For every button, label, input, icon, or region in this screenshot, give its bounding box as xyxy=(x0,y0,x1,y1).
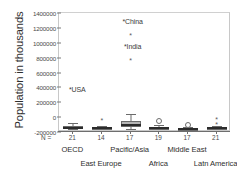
median-line xyxy=(121,124,141,126)
category-label: OECD xyxy=(61,145,83,154)
y-tick-mark xyxy=(57,13,61,14)
y-tick-label: 1400000 xyxy=(33,10,56,17)
outlier-extreme-marker: * xyxy=(101,117,104,124)
category-label: Pacific/Asia xyxy=(110,145,149,154)
y-axis-title: Population in thousands xyxy=(10,4,28,136)
plot-area: 1400000120000010000008000006000004000002… xyxy=(58,12,230,131)
whisker-cap-upper xyxy=(154,125,164,126)
y-tick-label: 1000000 xyxy=(33,39,56,46)
whisker-cap-upper xyxy=(126,114,136,115)
n-value: 17 xyxy=(126,134,133,141)
n-value: 19 xyxy=(155,134,162,141)
y-tick-label: 200000 xyxy=(36,99,56,106)
median-line xyxy=(178,128,198,130)
point-annotation: *India xyxy=(124,42,141,49)
category-label: Middle East xyxy=(167,145,206,154)
boxplot-box xyxy=(145,25,174,144)
y-tick-label: 1200000 xyxy=(33,24,56,31)
category-label: East Europe xyxy=(80,159,121,168)
category-label: Africa xyxy=(149,159,168,168)
n-value: 21 xyxy=(69,134,76,141)
median-line xyxy=(63,127,83,129)
y-tick-label: 400000 xyxy=(36,84,56,91)
median-line xyxy=(207,127,227,129)
outlier-extreme-marker: * xyxy=(129,56,132,63)
point-annotation: *China xyxy=(122,18,142,25)
median-line xyxy=(92,127,112,129)
median-line xyxy=(149,127,169,129)
outlier-marker xyxy=(185,122,191,128)
whisker-cap-upper xyxy=(68,123,78,124)
x-axis-line xyxy=(58,131,230,132)
boxplot-box xyxy=(174,25,203,144)
category-label: Latn America xyxy=(194,159,237,168)
n-value: 14 xyxy=(97,134,104,141)
boxplot-box: ** xyxy=(202,25,231,144)
boxplot-box xyxy=(59,25,88,144)
boxplot-chart: Population in thousands 1400000120000010… xyxy=(0,0,237,180)
n-value: 21 xyxy=(212,134,219,141)
outlier-extreme-marker: * xyxy=(129,32,132,39)
y-tick-label: 0 xyxy=(53,114,56,121)
outlier-marker xyxy=(156,118,162,124)
y-tick-label: 600000 xyxy=(36,69,56,76)
n-prefix-label: N = xyxy=(41,134,51,141)
boxplot-box: * xyxy=(88,25,117,144)
n-value: 17 xyxy=(183,134,190,141)
y-tick-label: 800000 xyxy=(36,54,56,61)
whisker-cap-lower xyxy=(126,129,136,130)
outlier-extreme-marker: * xyxy=(215,121,218,128)
point-annotation: *USA xyxy=(69,86,86,93)
